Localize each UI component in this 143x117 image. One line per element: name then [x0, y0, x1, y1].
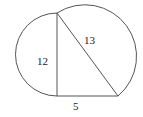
label-horizontal-leg: 5	[73, 100, 79, 112]
diagram: 12 13 5	[0, 0, 143, 117]
label-vertical-leg: 12	[37, 55, 48, 67]
semicircle-on-hypotenuse	[57, 5, 137, 96]
label-hypotenuse: 13	[84, 34, 96, 46]
hypotenuse	[57, 13, 118, 96]
